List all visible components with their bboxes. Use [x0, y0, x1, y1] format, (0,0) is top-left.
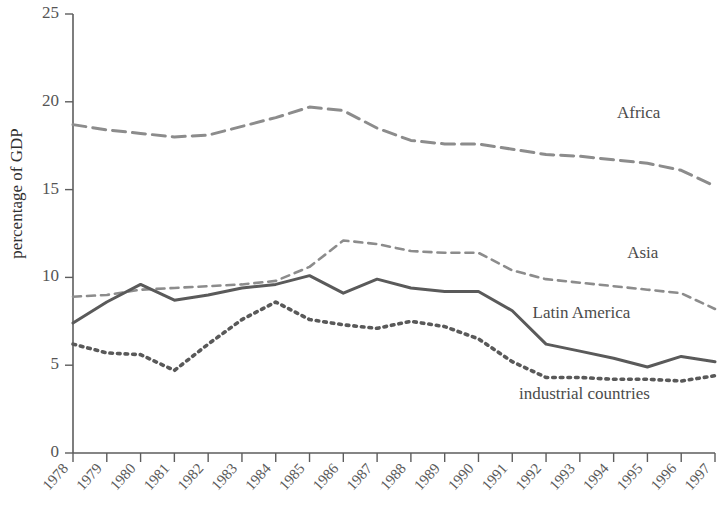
series-lines: [73, 107, 715, 381]
series-label-africa: Africa: [617, 103, 661, 122]
x-tick-label: 1987: [343, 460, 375, 493]
series-label-latin-america: Latin America: [533, 303, 631, 322]
x-tick-label: 1990: [445, 460, 477, 493]
x-tick-label: 1989: [411, 460, 443, 493]
x-tick-label: 1993: [546, 460, 578, 493]
x-tick-label: 1996: [647, 460, 679, 493]
y-tick-label: 15: [42, 179, 59, 198]
y-tick-label: 25: [42, 3, 59, 22]
series-label-asia: Asia: [627, 243, 659, 262]
x-tick-label: 1982: [174, 460, 206, 493]
y-axis: 0510152025: [42, 3, 73, 461]
x-tick-label: 1981: [141, 460, 173, 493]
x-tick-label: 1995: [614, 460, 646, 493]
x-tick-label: 1979: [73, 460, 105, 493]
x-tick-label: 1986: [310, 460, 342, 493]
x-tick-label: 1984: [242, 460, 274, 493]
series-labels: AfricaAsiaLatin Americaindustrial countr…: [519, 103, 661, 403]
x-tick-label: 1988: [377, 460, 409, 493]
y-tick-label: 5: [51, 354, 60, 373]
x-tick-label: 1994: [580, 460, 612, 493]
x-tick-label: 1997: [681, 460, 713, 493]
y-tick-label: 20: [42, 91, 59, 110]
x-axis: 1978197919801981198219831984198519861987…: [39, 453, 715, 493]
x-tick-label: 1985: [276, 460, 308, 493]
x-tick-label: 1991: [479, 460, 511, 493]
x-tick-label: 1983: [208, 460, 240, 493]
x-tick-label: 1978: [39, 460, 71, 493]
x-tick-label: 1980: [107, 460, 139, 493]
series-label-industrial-countries: industrial countries: [519, 384, 650, 403]
y-tick-label: 0: [51, 442, 60, 461]
y-axis-title: percentage of GDP: [7, 128, 26, 258]
y-tick-label: 10: [42, 266, 59, 285]
x-tick-label: 1992: [512, 460, 544, 493]
line-chart: 0510152025 19781979198019811982198319841…: [0, 0, 720, 517]
chart-container: 0510152025 19781979198019811982198319841…: [0, 0, 720, 517]
